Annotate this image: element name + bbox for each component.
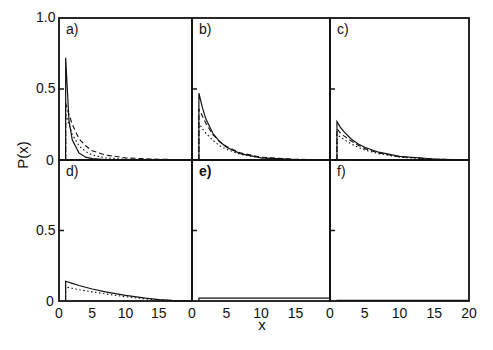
panel-frame bbox=[59, 160, 192, 301]
panel-frame bbox=[192, 160, 330, 301]
xtick-label: 20 bbox=[461, 305, 477, 321]
panel-frame bbox=[59, 18, 192, 160]
xtick-label: 5 bbox=[223, 305, 231, 321]
xtick-label: 15 bbox=[151, 305, 167, 321]
panel-label: e) bbox=[199, 163, 211, 179]
xtick-label: 10 bbox=[253, 305, 269, 321]
panel-label: c) bbox=[337, 21, 349, 37]
panel-b: b) bbox=[192, 18, 330, 160]
xtick-label: 15 bbox=[426, 305, 442, 321]
ytick-label-bottom-0.5: 0.5 bbox=[36, 222, 56, 238]
ytick-label-top-0.5: 0.5 bbox=[36, 80, 56, 96]
xtick-label: 5 bbox=[88, 305, 96, 321]
series-line-dotted bbox=[66, 287, 192, 301]
xtick-label: 10 bbox=[118, 305, 134, 321]
xtick-label: 15 bbox=[288, 305, 304, 321]
chart-figure: a)b)c)d)e)f) 1.0 0.5 0 0.5 0 P(x) x 0510… bbox=[0, 0, 493, 350]
panel-c: c) bbox=[330, 18, 469, 160]
ytick-label-top-0: 0 bbox=[46, 152, 54, 168]
ytick-label-top-1.0: 1.0 bbox=[36, 9, 56, 25]
panel-a: a) bbox=[59, 18, 192, 160]
xtick-label: 10 bbox=[392, 305, 408, 321]
panel-f: f) bbox=[330, 160, 469, 301]
xtick-label: 5 bbox=[361, 305, 369, 321]
axis-labels: 1.0 0.5 0 0.5 0 P(x) x 05101505101505101… bbox=[14, 9, 477, 333]
series-line-dotted bbox=[199, 123, 330, 160]
panel-grid: a)b)c)d)e)f) bbox=[59, 18, 469, 301]
panel-e: e) bbox=[192, 160, 330, 301]
series-line-dashed bbox=[337, 129, 469, 160]
panel-label: b) bbox=[199, 21, 211, 37]
panel-label: d) bbox=[66, 163, 78, 179]
series-line-solid bbox=[66, 58, 192, 160]
series-line-solid bbox=[337, 122, 469, 160]
panel-frame bbox=[192, 18, 330, 160]
series-line-dashed bbox=[66, 103, 192, 160]
series-line-dotted bbox=[66, 113, 192, 160]
series-line-dashed bbox=[199, 109, 330, 160]
series-line-solid bbox=[337, 300, 469, 301]
panel-d: d) bbox=[59, 160, 192, 301]
y-axis-label: P(x) bbox=[14, 141, 31, 169]
panel-label: f) bbox=[337, 163, 346, 179]
panel-frame bbox=[330, 160, 469, 301]
series-line-solid bbox=[199, 93, 330, 160]
ytick-label-bottom-0: 0 bbox=[46, 293, 54, 309]
xtick-label: 0 bbox=[326, 305, 334, 321]
panel-label: a) bbox=[66, 21, 78, 37]
xtick-label: 0 bbox=[55, 305, 63, 321]
xtick-label: 0 bbox=[188, 305, 196, 321]
